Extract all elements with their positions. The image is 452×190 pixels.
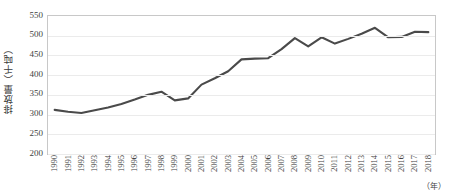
x-tick-label: 1997: [143, 155, 153, 172]
x-tick-label: 2012: [343, 155, 353, 172]
x-tick-label: 2001: [196, 155, 206, 172]
x-tick-label: 1992: [76, 155, 86, 172]
x-tick-label: 1999: [169, 155, 179, 172]
x-axis-unit-label: （年）: [422, 180, 446, 190]
x-tick-label: 1991: [63, 155, 73, 172]
gridline: [48, 75, 435, 76]
y-tick-label: 250: [30, 129, 44, 138]
gridline: [48, 115, 435, 116]
y-tick-label: 550: [30, 11, 44, 20]
x-tick-label: 2002: [209, 155, 219, 172]
y-axis-title-text: 排放量（千吨）: [2, 44, 16, 114]
x-tick-label: 2011: [329, 155, 339, 172]
emissions-data-line: [55, 28, 429, 113]
y-tick-label: 500: [30, 30, 44, 39]
x-tick-label: 2010: [316, 155, 326, 172]
x-tick-label: 1994: [103, 155, 113, 172]
x-tick-label: 2018: [423, 155, 433, 172]
y-tick-label: 200: [30, 149, 44, 158]
x-tick-label: 1996: [129, 155, 139, 172]
x-tick-label: 1990: [49, 155, 59, 172]
y-axis-tick-labels: 550500450400350300250200: [18, 0, 45, 160]
plot-area: [47, 15, 436, 155]
gridline: [48, 95, 435, 96]
y-tick-label: 300: [30, 109, 44, 118]
x-tick-label: 2013: [356, 155, 366, 172]
x-tick-label: 2017: [409, 155, 419, 172]
x-tick-label: 2015: [383, 155, 393, 172]
x-tick-label: 1993: [89, 155, 99, 172]
emissions-line-chart: 排放量（千吨） 550500450400350300250200 1990199…: [0, 0, 452, 190]
x-tick-label: 2008: [289, 155, 299, 172]
gridline: [48, 36, 435, 37]
y-tick-label: 350: [30, 89, 44, 98]
x-tick-label: 2004: [236, 155, 246, 172]
y-axis-title: 排放量（千吨）: [0, 0, 18, 158]
x-tick-label: 2000: [183, 155, 193, 172]
x-tick-label: 2016: [396, 155, 406, 172]
y-tick-label: 450: [30, 50, 44, 59]
x-tick-label: 2006: [263, 155, 273, 172]
x-tick-label: 2014: [369, 155, 379, 172]
x-tick-label: 1998: [156, 155, 166, 172]
x-tick-label: 2009: [303, 155, 313, 172]
x-tick-label: 2005: [249, 155, 259, 172]
gridline: [48, 134, 435, 135]
gridline: [48, 55, 435, 56]
y-tick-label: 400: [30, 70, 44, 79]
x-tick-label: 2003: [223, 155, 233, 172]
x-tick-label: 2007: [276, 155, 286, 172]
x-axis-tick-labels: 1990199119921993199419951996199719981999…: [47, 155, 436, 190]
x-tick-label: 1995: [116, 155, 126, 172]
